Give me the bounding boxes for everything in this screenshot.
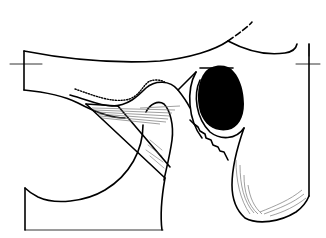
lower-bone-outline — [25, 178, 165, 230]
right-crosshair-marker — [296, 44, 320, 64]
diagram-canvas — [0, 0, 326, 238]
anatomical-diagram — [0, 0, 326, 238]
upper-bone-outline — [24, 22, 297, 118]
dotted-disc-line — [75, 80, 166, 100]
ligament-band — [86, 104, 180, 178]
mandible-arc — [25, 125, 143, 201]
condyle-region — [70, 72, 196, 180]
mastoid-process — [232, 128, 309, 222]
